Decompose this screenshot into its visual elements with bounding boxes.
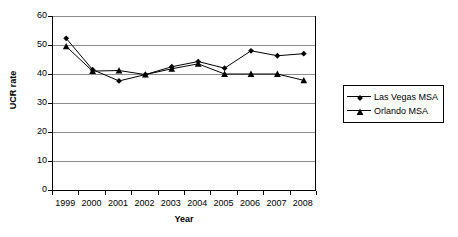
series-line-1 [66, 46, 304, 80]
legend-label: Las Vegas MSA [374, 92, 438, 102]
data-point [301, 51, 307, 57]
x-tick-mark [105, 191, 106, 195]
x-tick-label: 2003 [161, 198, 181, 208]
series-line-0 [66, 38, 304, 81]
x-tick-label: 1999 [55, 198, 75, 208]
x-tick-label: 2000 [82, 198, 102, 208]
y-tick-label: 60 [3, 11, 47, 20]
x-tick-mark [184, 191, 185, 195]
x-tick-label: 2005 [214, 198, 234, 208]
y-tick-label: 10 [3, 156, 47, 165]
chart-legend: Las Vegas MSAOrlando MSA [343, 85, 444, 123]
x-tick-mark [158, 191, 159, 195]
triangle-marker-icon [347, 105, 371, 117]
y-tick-mark [48, 161, 52, 162]
x-axis-title: Year [52, 214, 316, 224]
legend-item[interactable]: Orlando MSA [347, 104, 438, 118]
y-axis-title: UCR rate [8, 55, 18, 125]
x-tick-mark [316, 191, 317, 195]
y-tick-mark [48, 45, 52, 46]
data-point [116, 78, 122, 84]
x-tick-mark [78, 191, 79, 195]
series-layer [53, 16, 317, 190]
x-tick-label: 2008 [293, 198, 313, 208]
y-tick-label: 50 [3, 40, 47, 49]
data-point [222, 65, 228, 71]
diamond-marker-icon [347, 91, 371, 103]
y-tick-mark [48, 103, 52, 104]
x-tick-label: 2007 [266, 198, 286, 208]
x-tick-label: 2004 [187, 198, 207, 208]
x-tick-mark [237, 191, 238, 195]
x-tick-label: 2006 [240, 198, 260, 208]
x-tick-label: 2002 [134, 198, 154, 208]
x-tick-label: 2001 [108, 198, 128, 208]
data-point [275, 53, 281, 59]
x-tick-mark [131, 191, 132, 195]
x-tick-mark [263, 191, 264, 195]
y-tick-label: 20 [3, 127, 47, 136]
y-tick-mark [48, 132, 52, 133]
data-point [248, 48, 254, 54]
data-point [63, 43, 70, 49]
x-tick-mark [210, 191, 211, 195]
y-tick-mark [48, 16, 52, 17]
legend-label: Orlando MSA [374, 106, 428, 116]
x-tick-mark [52, 191, 53, 195]
y-tick-mark [48, 74, 52, 75]
x-tick-mark [290, 191, 291, 195]
plot-inner [53, 16, 315, 190]
legend-item[interactable]: Las Vegas MSA [347, 90, 438, 104]
y-tick-label: 0 [3, 185, 47, 194]
plot-area [52, 16, 316, 190]
chart-figure: 0102030405060 UCR rate Year Las Vegas MS… [0, 0, 458, 237]
